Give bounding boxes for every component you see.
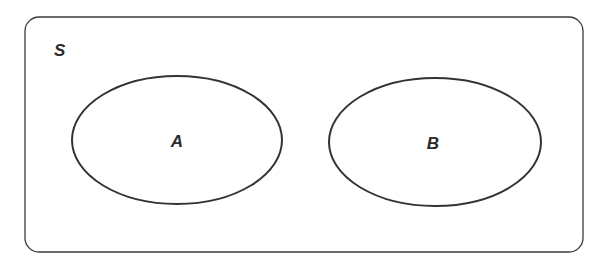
set-a-label: A (170, 132, 183, 151)
set-b-label: B (427, 134, 439, 153)
venn-diagram: S A B (0, 0, 604, 263)
universe-label: S (54, 41, 66, 60)
universe-rectangle (25, 17, 583, 252)
